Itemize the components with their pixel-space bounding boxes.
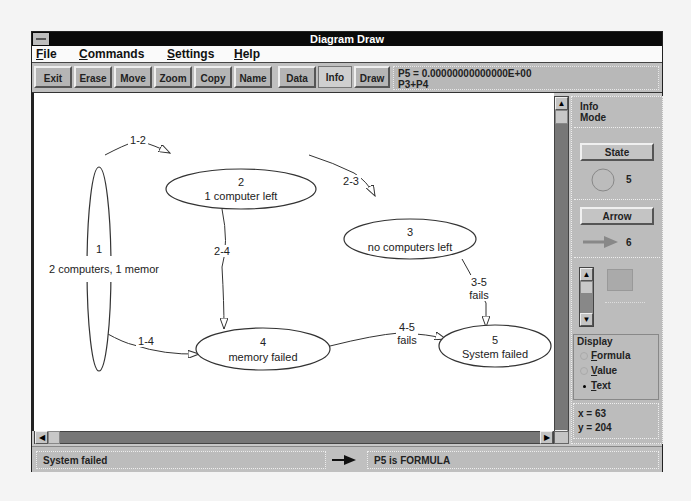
exit-button[interactable]: Exit <box>34 66 72 88</box>
formula-line-1: P5 = 0.00000000000000E+00 <box>398 68 654 79</box>
arrow-1-2-label: 1-2 <box>130 134 146 146</box>
formula-radio-label[interactable]: Formula <box>591 350 630 361</box>
formula-radio[interactable] <box>580 352 588 360</box>
state-4[interactable] <box>196 328 330 370</box>
divider <box>574 257 660 258</box>
arrow-4-5-label: 4-5 <box>399 321 415 333</box>
erase-button[interactable]: Erase <box>74 66 112 88</box>
display-label: Display <box>577 336 613 347</box>
scroll-corner <box>554 431 569 444</box>
state-3-id: 3 <box>407 226 413 238</box>
size-up-arrow-icon[interactable]: ▲ <box>580 268 593 281</box>
menu-file[interactable]: File <box>36 46 57 62</box>
menu-settings[interactable]: Settings <box>167 46 214 62</box>
size-preview <box>607 269 633 291</box>
menu-commands[interactable]: Commands <box>79 46 144 62</box>
display-group: Display Formula Value Text <box>573 334 659 400</box>
toolbar: Exit Erase Move Zoom Copy Name Data Info… <box>32 63 662 93</box>
status-bar: System failed P5 is FORMULA <box>32 446 662 472</box>
coordinates-box: x = 63 y = 204 <box>573 403 659 439</box>
size-scroll-thumb[interactable] <box>580 281 593 294</box>
scroll-right-arrow-icon[interactable]: ▶ <box>540 431 553 444</box>
state-5[interactable] <box>439 325 551 367</box>
arrow-2-4[interactable] <box>222 209 226 329</box>
arrow-1-4-label: 1-4 <box>138 335 154 347</box>
arrow-shape-icon <box>582 235 622 249</box>
arrow-button[interactable]: Arrow <box>580 207 654 225</box>
state-circle-icon <box>590 167 616 193</box>
window-title: Diagram Draw <box>32 32 662 46</box>
info-button[interactable]: Info <box>318 66 352 88</box>
move-button[interactable]: Move <box>114 66 152 88</box>
arrow-3-5-sub: fails <box>469 289 489 301</box>
value-radio[interactable] <box>580 367 588 375</box>
menu-bar: File Commands Settings Help <box>32 46 662 63</box>
status-formula: P5 is FORMULA <box>367 451 659 469</box>
diagram-canvas[interactable]: 1 2 computers, 1 memor 2 1 computer left… <box>32 93 554 431</box>
state-2-label: 1 computer left <box>205 190 278 202</box>
horizontal-scroll-thumb[interactable] <box>48 431 60 444</box>
formula-line-2: P3+P4 <box>398 79 654 90</box>
title-bar: Diagram Draw <box>32 32 662 46</box>
text-radio-label[interactable]: Text <box>591 380 611 391</box>
menu-file-rest: ile <box>43 47 56 61</box>
info-panel: Info Mode State 5 Arrow 6 ▲ ▼ Display Fo… <box>571 96 663 444</box>
state-4-label: memory failed <box>228 351 297 363</box>
state-5-label: System failed <box>462 348 528 360</box>
vertical-scrollbar[interactable]: ▲ ▼ <box>554 96 569 444</box>
state-2-id: 2 <box>238 176 244 188</box>
mnemonic: S <box>167 47 175 61</box>
state-4-id: 4 <box>260 336 266 348</box>
arrow-count: 6 <box>626 237 632 248</box>
data-button[interactable]: Data <box>278 66 316 88</box>
mode-label-line-2: Mode <box>580 112 606 123</box>
mode-label-line-1: Info <box>580 101 598 112</box>
arrow-4-5[interactable] <box>330 333 446 346</box>
arrow-2-4-label: 2-4 <box>214 245 230 257</box>
scroll-left-arrow-icon[interactable]: ◀ <box>35 431 48 444</box>
mnemonic: C <box>79 47 88 61</box>
mnemonic: H <box>234 47 243 61</box>
draw-button[interactable]: Draw <box>354 66 390 88</box>
state-1-label: 2 computers, 1 memor <box>49 263 159 275</box>
menu-commands-rest: ommands <box>88 47 145 61</box>
vertical-scroll-thumb[interactable] <box>555 110 568 124</box>
state-button[interactable]: State <box>580 143 654 161</box>
status-message: System failed <box>36 451 326 469</box>
value-radio-label[interactable]: Value <box>591 365 617 376</box>
zoom-button[interactable]: Zoom <box>154 66 192 88</box>
state-3[interactable] <box>344 219 476 259</box>
arrow-2-3-label: 2-3 <box>343 175 359 187</box>
state-2[interactable] <box>166 169 316 209</box>
size-down-arrow-icon[interactable]: ▼ <box>580 313 593 326</box>
scroll-up-arrow-icon[interactable]: ▲ <box>555 97 568 110</box>
menu-help[interactable]: Help <box>234 46 260 62</box>
menu-settings-rest: ettings <box>175 47 214 61</box>
name-button[interactable]: Name <box>234 66 272 88</box>
state-3-label: no computers left <box>368 241 452 253</box>
arrow-4-5-sub: fails <box>397 334 417 346</box>
state-5-id: 5 <box>492 334 498 346</box>
divider <box>574 199 660 200</box>
size-scrollbar[interactable]: ▲ ▼ <box>579 267 594 327</box>
coord-x: x = 63 <box>578 408 606 419</box>
divider <box>574 127 660 128</box>
horizontal-scrollbar[interactable]: ◀ ▶ <box>34 431 554 444</box>
size-ruler <box>605 302 645 303</box>
menu-help-rest: elp <box>243 47 260 61</box>
coord-y: y = 204 <box>578 422 612 433</box>
diagram-draw-window: Diagram Draw File Commands Settings Help… <box>31 31 663 472</box>
arrow-3-5-label: 3-5 <box>471 276 487 288</box>
state-1-id: 1 <box>96 243 102 255</box>
diagram-svg: 1 2 computers, 1 memor 2 1 computer left… <box>34 93 554 431</box>
copy-button[interactable]: Copy <box>194 66 232 88</box>
state-count: 5 <box>626 174 632 185</box>
arrow-right-icon <box>332 454 358 466</box>
formula-display: P5 = 0.00000000000000E+00 P3+P4 <box>393 66 659 90</box>
text-radio[interactable] <box>580 382 588 390</box>
